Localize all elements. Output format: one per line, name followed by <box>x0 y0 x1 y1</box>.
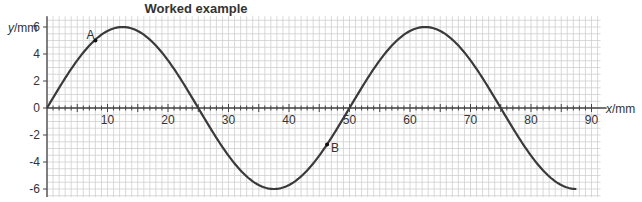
x-tick-label: 40 <box>282 113 296 127</box>
y-axis-label: y/mm <box>7 21 37 35</box>
x-tick-label: 30 <box>222 113 236 127</box>
point-b <box>325 142 329 146</box>
y-tick-label: -2 <box>29 128 40 142</box>
y-tick-label: 2 <box>33 74 40 88</box>
x-tick-label: 10 <box>101 113 115 127</box>
y-tick-label: 4 <box>33 47 40 61</box>
x-tick-label: 90 <box>585 113 599 127</box>
y-tick-label: -6 <box>29 182 40 196</box>
x-tick-label: 70 <box>464 113 478 127</box>
axes <box>43 16 607 197</box>
grid <box>47 16 601 197</box>
y-tick-label: 0 <box>33 101 40 115</box>
x-axis-label: x/mm <box>605 102 635 116</box>
y-tick-label: -4 <box>29 155 40 169</box>
x-tick-label: 80 <box>524 113 538 127</box>
point-label-b: B <box>331 141 339 155</box>
x-tick-label: 60 <box>403 113 417 127</box>
x-tick-label: 20 <box>161 113 175 127</box>
wave-chart: Worked example 1020304050607080906420-2-… <box>0 0 642 202</box>
point-label-a: A <box>86 28 94 42</box>
chart-title: Worked example <box>144 1 247 16</box>
